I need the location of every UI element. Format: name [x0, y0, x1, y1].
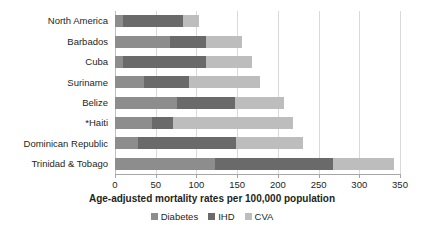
bar-segment-diabetes[interactable]	[115, 97, 177, 109]
bar-segment-cva[interactable]	[235, 97, 284, 109]
bar-row[interactable]	[115, 52, 400, 72]
bar-segment-diabetes[interactable]	[115, 158, 215, 170]
bar-track	[115, 158, 400, 170]
gridline	[400, 11, 401, 174]
bar-segment-ihd[interactable]	[215, 158, 333, 170]
x-tick-label: 350	[392, 179, 408, 191]
bar-track	[115, 76, 400, 88]
bar-track	[115, 137, 400, 149]
x-tick-label: 250	[311, 179, 327, 191]
bar-segment-cva[interactable]	[189, 76, 260, 88]
bar-segment-cva[interactable]	[236, 137, 303, 149]
category-axis: North AmericaBarbadosCubaSurinameBelize*…	[0, 11, 112, 174]
bar-segment-ihd[interactable]	[123, 56, 206, 68]
bar-segment-ihd[interactable]	[177, 97, 235, 109]
bar-track	[115, 56, 400, 68]
x-tick	[156, 174, 157, 178]
category-label: Cuba	[0, 52, 112, 72]
legend-item[interactable]: IHD	[208, 212, 234, 222]
bar-segment-cva[interactable]	[206, 56, 252, 68]
x-tick	[237, 174, 238, 178]
bar-track	[115, 15, 400, 27]
bar-track	[115, 97, 400, 109]
x-axis-tick-labels: 050100150200250300350	[115, 179, 400, 191]
bar-series-group	[115, 11, 400, 174]
bar-row[interactable]	[115, 154, 400, 174]
legend-label: IHD	[218, 212, 234, 222]
bar-row[interactable]	[115, 11, 400, 31]
bar-track	[115, 36, 400, 48]
bar-segment-ihd[interactable]	[123, 15, 182, 27]
category-label: *Haiti	[0, 113, 112, 133]
bar-segment-diabetes[interactable]	[115, 137, 138, 149]
plot-area	[115, 11, 400, 174]
bar-segment-diabetes[interactable]	[115, 15, 123, 27]
category-label: Barbados	[0, 31, 112, 51]
x-tick-label: 300	[351, 179, 367, 191]
category-label: Dominican Republic	[0, 133, 112, 153]
x-tick	[400, 174, 401, 178]
x-tick	[196, 174, 197, 178]
legend-label: Diabetes	[161, 212, 199, 222]
x-tick	[278, 174, 279, 178]
legend-item[interactable]: CVA	[245, 212, 274, 222]
bar-row[interactable]	[115, 133, 400, 153]
stacked-bar-chart: North AmericaBarbadosCubaSurinameBelize*…	[0, 0, 424, 238]
bar-row[interactable]	[115, 113, 400, 133]
bar-row[interactable]	[115, 93, 400, 113]
x-axis-ticks	[115, 174, 400, 178]
bar-segment-ihd[interactable]	[152, 117, 173, 129]
bar-segment-cva[interactable]	[206, 36, 242, 48]
bar-segment-cva[interactable]	[183, 15, 199, 27]
category-label: Suriname	[0, 72, 112, 92]
bar-row[interactable]	[115, 72, 400, 92]
legend-swatch-icon	[245, 213, 252, 220]
bar-segment-ihd[interactable]	[138, 137, 237, 149]
bar-segment-diabetes[interactable]	[115, 36, 170, 48]
bar-segment-diabetes[interactable]	[115, 76, 144, 88]
x-axis-title: Age-adjusted mortality rates per 100,000…	[0, 193, 424, 204]
chart-legend: DiabetesIHDCVA	[0, 212, 424, 222]
x-tick-label: 0	[112, 179, 117, 191]
bar-row[interactable]	[115, 31, 400, 51]
bar-segment-ihd[interactable]	[170, 36, 206, 48]
x-tick	[115, 174, 116, 178]
category-label: Trinidad & Tobago	[0, 154, 112, 174]
x-tick-label: 100	[188, 179, 204, 191]
bar-segment-cva[interactable]	[333, 158, 394, 170]
bar-segment-diabetes[interactable]	[115, 117, 152, 129]
x-tick	[359, 174, 360, 178]
bar-segment-ihd[interactable]	[144, 76, 190, 88]
category-label: North America	[0, 11, 112, 31]
legend-swatch-icon	[208, 213, 215, 220]
bar-track	[115, 117, 400, 129]
legend-swatch-icon	[151, 213, 158, 220]
category-label: Belize	[0, 93, 112, 113]
x-tick	[319, 174, 320, 178]
x-tick-label: 150	[229, 179, 245, 191]
legend-item[interactable]: Diabetes	[151, 212, 199, 222]
x-tick-label: 50	[150, 179, 161, 191]
bar-segment-diabetes[interactable]	[115, 56, 123, 68]
x-tick-label: 200	[270, 179, 286, 191]
legend-label: CVA	[255, 212, 274, 222]
bar-segment-cva[interactable]	[173, 117, 294, 129]
